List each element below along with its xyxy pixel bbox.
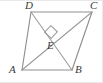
- side-DA: [22, 12, 31, 70]
- vertex-label-B: B: [75, 64, 82, 75]
- right-angle-mark-at-E: [45, 26, 58, 39]
- vertex-label-D: D: [25, 0, 33, 11]
- vertex-label-A: A: [9, 64, 16, 75]
- right-angle-mark-icon: [45, 26, 58, 39]
- vertex-label-C: C: [90, 0, 97, 11]
- vertex-label-E: E: [47, 40, 54, 51]
- geometry-figure: D C A B E: [0, 0, 103, 83]
